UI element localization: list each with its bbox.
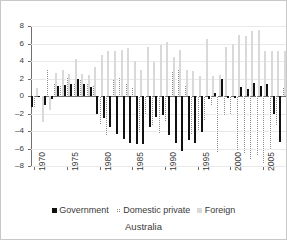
y-axis-tick-label: 2 [0,75,24,83]
bar-group [181,26,188,166]
bar-gov [181,96,183,151]
bar-group [64,26,71,166]
y-axis-tick-label: –6 [0,145,24,153]
y-axis-tick-mark [28,44,31,45]
x-axis-tick-label: 1980 [104,152,113,171]
bar-gov [240,87,242,96]
bar-dom [151,96,153,126]
y-axis-tick-mark [28,131,31,132]
chart-figure: 19701975198019851990199520002005 Governm… [0,0,287,240]
bar-gov [123,96,125,139]
bar-group [129,26,136,166]
bar-gov [247,89,249,96]
bar-dom [164,96,166,122]
bar-gov [260,86,262,97]
bar-group [234,26,241,166]
legend-label: Government [59,205,109,215]
bar-group [227,26,234,166]
x-axis-tick-label: 1990 [169,152,178,171]
y-axis-tick-mark [28,149,31,150]
legend-label: Foreign [205,205,236,215]
y-axis-tick-mark [28,96,31,97]
x-axis-tick-mark [34,167,35,170]
legend-swatch-icon [52,208,57,213]
bar-dom [138,96,140,133]
bar-group [194,26,201,166]
bar-dom [249,96,251,160]
bar-dom [275,96,277,126]
bar-dom [190,96,192,135]
x-axis-tick-mark [165,167,166,170]
bar-gov [116,96,118,134]
bar-gov [221,79,223,96]
bar-group [31,26,38,166]
bar-gov [168,96,170,135]
bar-dom [229,96,231,115]
x-axis-tick-label: 1995 [202,152,211,171]
y-axis-tick-label: –4 [0,127,24,135]
bar-gov [253,83,255,96]
bar-dom [269,96,271,150]
y-axis-tick-label: 0 [0,92,24,100]
bar-group [38,26,45,166]
y-axis-tick-label: 8 [0,22,24,30]
bar-group [136,26,143,166]
bar-dom [33,96,35,108]
bar-group [103,26,110,166]
bar-gov [129,96,131,143]
bar-dom [197,96,199,131]
bar-gov [44,96,46,105]
bar-group [116,26,123,166]
bar-group [214,26,221,166]
bar-group [123,26,130,166]
bar-group [279,26,286,166]
legend-item-dom: Domestic private [116,205,191,215]
chart-title: Australia [1,221,286,232]
bar-group [51,26,58,166]
bar-group [162,26,169,166]
legend-item-gov: Government [52,205,109,215]
bar-group [247,26,254,166]
bar-group [109,26,116,166]
bar-dom [236,96,238,151]
bar-dom [262,96,264,164]
legend-swatch-icon [197,208,202,213]
bar-dom [144,96,146,115]
bar-group [273,26,280,166]
bar-dom [99,96,101,125]
legend-swatch-icon [116,208,121,213]
bar-group [83,26,90,166]
bar-group [90,26,97,166]
bar-group [188,26,195,166]
bar-dom [256,96,258,156]
x-axis-tick-mark [67,167,68,170]
bar-gov [279,96,281,142]
bar-dom [203,96,205,121]
bar-group [240,26,247,166]
x-axis-tick-mark [230,167,231,170]
x-axis-tick-label: 1970 [38,152,47,171]
legend-item-for: Foreign [197,205,235,215]
bar-group [175,26,182,166]
plot-area [31,26,286,166]
y-axis-tick-label: 4 [0,57,24,65]
x-axis-tick-label: 2005 [267,152,276,171]
bar-series-container [31,26,286,166]
y-axis-tick-label: –8 [0,162,24,170]
bar-group [44,26,51,166]
x-axis-tick-mark [100,167,101,170]
bar-group [266,26,273,166]
bar-dom [46,70,48,96]
bar-group [149,26,156,166]
bar-dom [223,96,225,116]
bar-group [168,26,175,166]
chart-legend: GovernmentDomestic privateForeign [1,205,286,215]
y-axis-tick-mark [28,79,31,80]
bar-group [96,26,103,166]
bar-group [201,26,208,166]
bar-group [155,26,162,166]
bar-dom [243,96,245,154]
y-axis-tick-mark [28,26,31,27]
bar-dom [216,96,218,153]
y-axis-tick-mark [28,114,31,115]
